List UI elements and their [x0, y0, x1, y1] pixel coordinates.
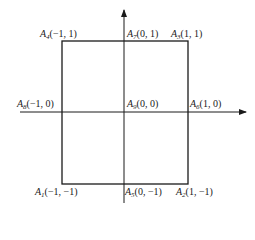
- point-label-a1: A1(−1, −1): [35, 186, 78, 201]
- point-coords: (1, 1): [181, 28, 203, 39]
- point-label-a6: A6(1, 0): [190, 98, 221, 113]
- point-coords: (1, −1): [186, 186, 213, 197]
- point-coords: (−1, −1): [45, 186, 78, 197]
- point-label-a9: A9(0, 0): [127, 98, 158, 113]
- point-label-a5: A5(0, −1): [125, 186, 162, 201]
- point-label-a3: A3(1, 1): [171, 28, 202, 43]
- point-coords: (1, 0): [200, 98, 222, 109]
- point-coords: (0, 0): [137, 98, 159, 109]
- point-coords: (−1, 0): [27, 98, 54, 109]
- point-coords: (−1, 1): [50, 28, 77, 39]
- point-label-a8: A8(−1, 0): [17, 98, 54, 113]
- point-coords: (0, −1): [135, 186, 162, 197]
- point-label-a2: A2(1, −1): [176, 186, 213, 201]
- point-label-a7: A7(0, 1): [127, 28, 158, 43]
- point-label-a4: A4(−1, 1): [40, 28, 77, 43]
- point-coords: (0, 1): [137, 28, 159, 39]
